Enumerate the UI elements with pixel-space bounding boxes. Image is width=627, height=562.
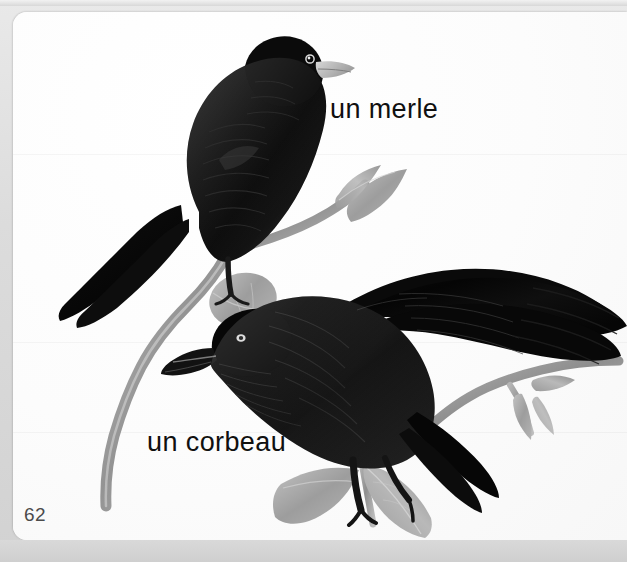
page-content-area: un merle un corbeau 62 — [13, 12, 627, 540]
merle-leg — [228, 259, 231, 294]
bird-illustration — [13, 12, 627, 540]
frame-top-edge — [0, 0, 627, 6]
scanned-page-frame: un merle un corbeau 62 — [0, 0, 627, 562]
label-un-corbeau: un corbeau — [147, 427, 286, 458]
book-page-card: un merle un corbeau 62 — [13, 12, 627, 540]
frame-bottom-edge — [0, 540, 627, 562]
page-number: 62 — [24, 504, 46, 526]
label-un-merle: un merle — [330, 94, 438, 125]
